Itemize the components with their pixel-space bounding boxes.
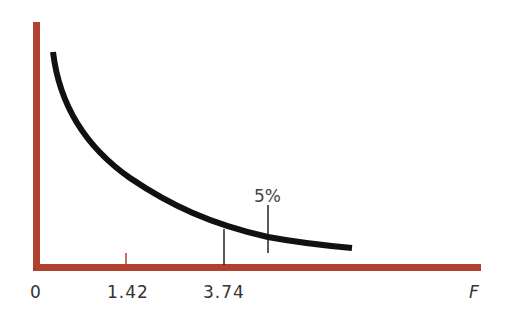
tick-label-3-74: 3.74: [203, 282, 245, 302]
x-axis: [33, 264, 481, 271]
x-axis-label: F: [469, 282, 479, 302]
tick-label-zero: 0: [30, 282, 42, 302]
tick-label-1-42: 1.42: [107, 282, 149, 302]
f-distribution-curve: [53, 52, 352, 248]
y-axis: [33, 22, 40, 270]
chart-canvas: [0, 0, 506, 318]
five-percent-label: 5%: [254, 186, 281, 206]
